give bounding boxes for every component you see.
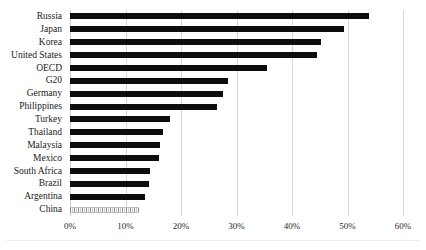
bar-row bbox=[70, 74, 403, 87]
y-axis-label-united-states: United States bbox=[11, 49, 62, 62]
x-axis-tick-40: 40% bbox=[284, 220, 301, 232]
bar-row bbox=[70, 139, 403, 152]
bar-row bbox=[70, 10, 403, 23]
bar-chart: RussiaJapanKoreaUnited StatesOECDG20Germ… bbox=[0, 0, 426, 250]
x-axis-tick-0: 0% bbox=[64, 220, 76, 232]
bar-row bbox=[70, 100, 403, 113]
bar-row bbox=[70, 23, 403, 36]
y-axis-label-turkey: Turkey bbox=[35, 113, 62, 126]
y-axis-label-germany: Germany bbox=[27, 87, 62, 100]
bar-row bbox=[70, 49, 403, 62]
bar-row bbox=[70, 87, 403, 100]
bottom-divider bbox=[6, 240, 420, 241]
y-axis-label-brazil: Brazil bbox=[39, 177, 62, 190]
y-axis-label-russia: Russia bbox=[37, 10, 62, 23]
bar-row bbox=[70, 177, 403, 190]
y-axis-label-mexico: Mexico bbox=[33, 152, 62, 165]
x-axis-tick-60: 60% bbox=[395, 220, 412, 232]
y-axis-category-labels: RussiaJapanKoreaUnited StatesOECDG20Germ… bbox=[0, 10, 66, 216]
bar-row bbox=[70, 113, 403, 126]
y-axis-label-g20: G20 bbox=[46, 74, 62, 87]
bar-row bbox=[70, 62, 403, 75]
bar-row bbox=[70, 152, 403, 165]
x-axis-tick-10: 10% bbox=[117, 220, 134, 232]
bar-mexico bbox=[70, 155, 159, 161]
bar-united-states bbox=[70, 52, 317, 58]
x-axis-tick-20: 20% bbox=[173, 220, 190, 232]
bar-row bbox=[70, 126, 403, 139]
bar-row bbox=[70, 203, 403, 216]
bar-brazil bbox=[70, 181, 149, 187]
x-axis-tick-50: 50% bbox=[339, 220, 356, 232]
y-axis-label-thailand: Thailand bbox=[28, 126, 62, 139]
bar-thailand bbox=[70, 129, 163, 135]
bar-row bbox=[70, 36, 403, 49]
bar-oecd bbox=[70, 65, 267, 71]
y-axis-label-argentina: Argentina bbox=[24, 190, 62, 203]
bar-philippines bbox=[70, 104, 217, 110]
y-axis-label-malaysia: Malaysia bbox=[27, 139, 62, 152]
y-axis-label-philippines: Philippines bbox=[19, 100, 62, 113]
bar-series bbox=[70, 10, 403, 216]
y-axis-label-south-africa: South Africa bbox=[14, 165, 62, 178]
y-axis-label-korea: Korea bbox=[39, 36, 62, 49]
bar-korea bbox=[70, 39, 321, 45]
bar-south-africa bbox=[70, 168, 150, 174]
chart-title bbox=[0, 0, 426, 8]
bar-row bbox=[70, 165, 403, 178]
x-axis-tick-labels: 0%10%20%30%40%50%60% bbox=[0, 220, 426, 234]
bar-germany bbox=[70, 91, 223, 97]
bar-turkey bbox=[70, 116, 170, 122]
bar-japan bbox=[70, 26, 344, 32]
bar-malaysia bbox=[70, 142, 160, 148]
plot-area bbox=[70, 10, 403, 216]
gridline-60 bbox=[403, 10, 404, 216]
y-axis-label-japan: Japan bbox=[40, 23, 62, 36]
bar-russia bbox=[70, 13, 369, 19]
bar-china bbox=[70, 207, 139, 213]
bar-g20 bbox=[70, 78, 228, 84]
bar-argentina bbox=[70, 194, 145, 200]
x-axis-tick-30: 30% bbox=[228, 220, 245, 232]
y-axis-label-china: China bbox=[39, 203, 62, 216]
bar-row bbox=[70, 190, 403, 203]
y-axis-label-oecd: OECD bbox=[36, 62, 62, 75]
